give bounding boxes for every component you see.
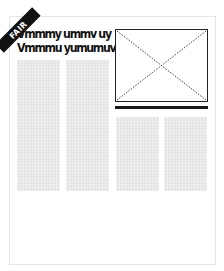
text-column-4 xyxy=(164,117,207,191)
headline-line-2: Vmmmu yumumuv xyxy=(17,41,112,55)
headline: Vmmmy ummv uy Vmmmu yumumuv xyxy=(17,27,112,54)
text-column-1 xyxy=(17,60,60,191)
text-column-2 xyxy=(66,60,109,191)
headline-line-1: Vmmmy ummv uy xyxy=(17,27,112,41)
text-column-3 xyxy=(116,117,159,191)
image-placeholder-cross-icon xyxy=(116,30,207,101)
divider-rule xyxy=(115,106,208,109)
image-placeholder xyxy=(115,29,208,102)
